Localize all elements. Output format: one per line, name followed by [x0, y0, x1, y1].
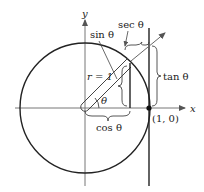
tan-label: tan θ	[163, 71, 189, 82]
sec-label: sec θ	[118, 19, 144, 30]
sec-pointer	[125, 31, 128, 46]
angle-label: θ	[101, 95, 107, 106]
cos-label: cos θ	[96, 122, 122, 133]
sin-label: sin θ	[90, 29, 114, 40]
tan-brace	[152, 46, 161, 106]
cos-brace	[85, 111, 130, 121]
radius-label: r = 1	[87, 71, 113, 82]
y-axis-label: y	[81, 8, 88, 19]
y-axis: y	[81, 8, 88, 186]
x-axis-label: x	[190, 103, 196, 114]
point-label: (1, 0)	[152, 113, 179, 124]
unit-circle-diagram: x y θ cos θ sin θ tan θ sec θ r = 1 (1, …	[0, 0, 204, 192]
point-1-0	[146, 105, 151, 110]
